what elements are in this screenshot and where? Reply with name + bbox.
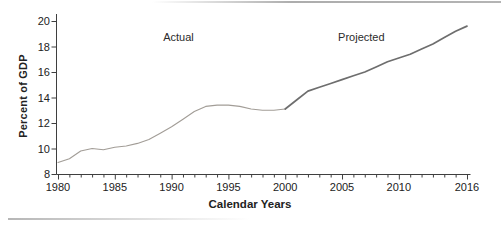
x-tick-label: 2016 <box>450 181 484 193</box>
y-tick-label: 16 <box>30 66 50 78</box>
x-tick-label: 1995 <box>211 181 245 193</box>
x-tick-label: 1990 <box>155 181 189 193</box>
x-tick-label: 2010 <box>382 181 416 193</box>
series-line-actual <box>58 105 285 162</box>
y-tick-label: 14 <box>30 92 50 104</box>
chart-plot <box>0 0 501 225</box>
x-tick-label: 2005 <box>325 181 359 193</box>
x-tick-label: 1980 <box>41 181 75 193</box>
y-tick-label: 20 <box>30 15 50 27</box>
axis-lines <box>57 14 471 175</box>
x-axis-title: Calendar Years <box>209 198 292 210</box>
y-tick-label: 8 <box>30 168 50 180</box>
x-tick-label: 1985 <box>98 181 132 193</box>
figure: Percent of GDP Calendar Years 8101214161… <box>0 0 501 225</box>
y-tick-label: 12 <box>30 117 50 129</box>
x-tick-label: 2000 <box>268 181 302 193</box>
annotation-actual: Actual <box>163 31 194 43</box>
annotation-projected: Projected <box>338 31 384 43</box>
y-tick-label: 10 <box>30 143 50 155</box>
y-tick-label: 18 <box>30 41 50 53</box>
y-axis-title: Percent of GDP <box>17 54 29 138</box>
